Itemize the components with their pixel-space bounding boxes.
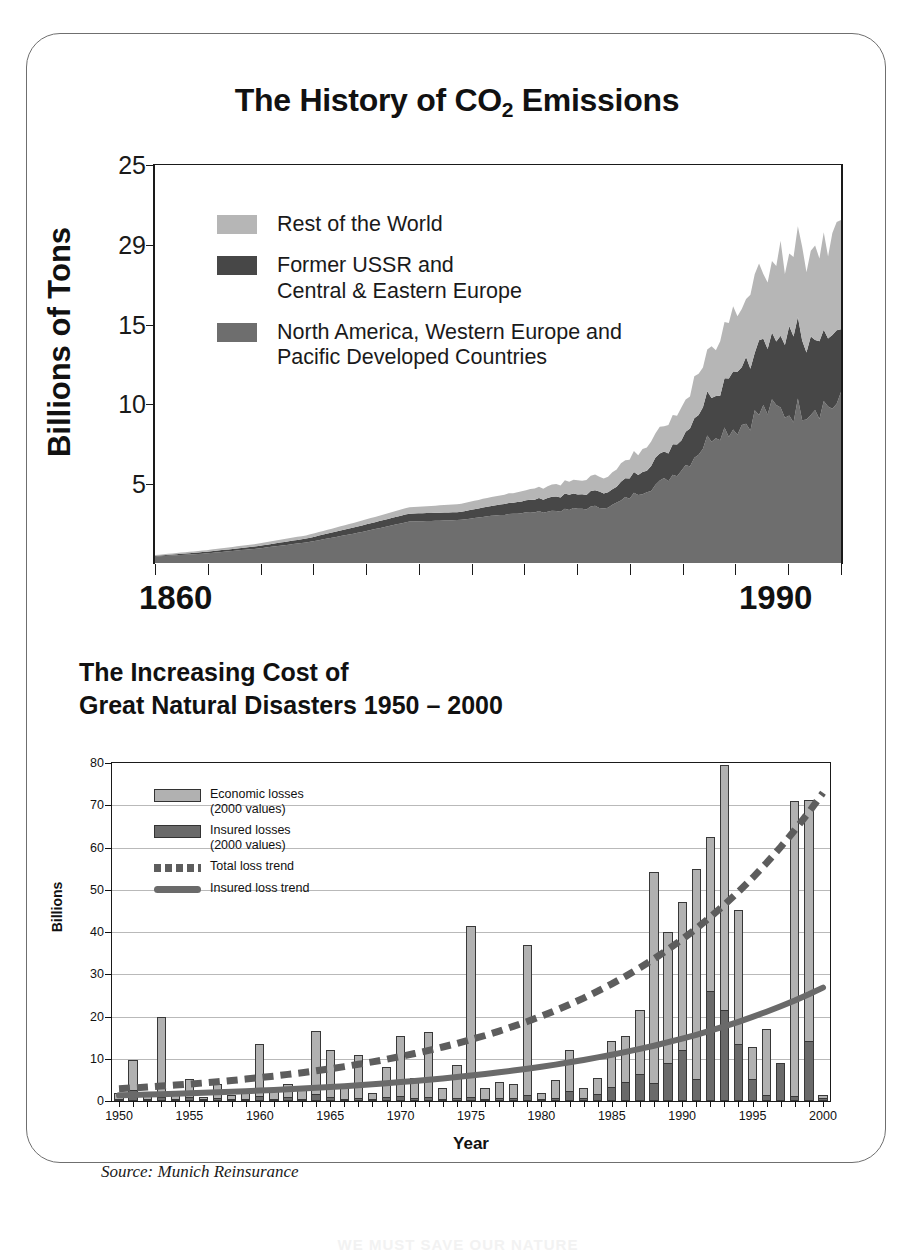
legend-swatch-icon [154, 825, 201, 838]
chart2-x-tick-label: 1995 [739, 1109, 767, 1123]
chart2-x-tick-label: 1985 [598, 1109, 626, 1123]
page-bottom-caption: WE MUST SAVE OUR NATURE [0, 1236, 916, 1252]
chart2-x-tick [358, 1101, 359, 1107]
chart2-x-tick [809, 1101, 810, 1107]
chart2-x-tick [189, 1101, 190, 1107]
chart2-x-tick [232, 1101, 233, 1107]
chart1-x-tick [313, 564, 314, 575]
chart2-x-tick [260, 1101, 261, 1107]
chart1-x-tick [630, 564, 631, 575]
chart2-x-tick [443, 1101, 444, 1107]
chart2-x-tick [753, 1101, 754, 1107]
chart2-x-tick [401, 1101, 402, 1107]
chart2-x-tick [724, 1101, 725, 1107]
chart1-y-tick-label: 5 [132, 470, 146, 499]
chart2-x-tick [668, 1101, 669, 1107]
legend-swatch-icon [217, 256, 257, 275]
chart2-x-tick [598, 1101, 599, 1107]
chart2-x-tick-label: 1975 [457, 1109, 485, 1123]
chart2-title-line2: Great Natural Disasters 1950 – 2000 [79, 689, 503, 722]
chart2-x-tick [175, 1101, 176, 1107]
chart2-x-tick [415, 1101, 416, 1107]
chart2-x-tick [485, 1101, 486, 1107]
chart2-x-tick [218, 1101, 219, 1107]
chart2-plot-area: 01020304050607080 1950195519601965197019… [111, 762, 831, 1102]
legend-swatch-icon [217, 215, 257, 234]
figure-frame: The History of CO2 Emissions Billions of… [26, 33, 886, 1163]
chart2-x-tick [555, 1101, 556, 1107]
chart2-y-axis-label: Billions [49, 847, 65, 967]
chart2-y-tick [105, 1017, 112, 1018]
legend-swatch-icon [217, 323, 257, 342]
chart2-x-tick [738, 1101, 739, 1107]
chart2-x-axis-title: Year [111, 1134, 831, 1154]
chart2-title: The Increasing Cost of Great Natural Dis… [79, 656, 503, 721]
chart2-x-tick-label: 1955 [176, 1109, 204, 1123]
chart2-x-tick [823, 1101, 824, 1107]
chart2-x-tick [654, 1101, 655, 1107]
natural-disaster-cost-chart: The Increasing Cost of Great Natural Dis… [27, 634, 887, 1164]
chart1-x-tick [208, 564, 209, 575]
chart2-y-tick-label: 50 [90, 883, 104, 897]
chart2-x-tick [387, 1101, 388, 1107]
chart2-x-tick-label: 1980 [527, 1109, 555, 1123]
chart2-legend: Economic losses(2000 values)Insured loss… [154, 787, 309, 902]
chart2-legend-label: Total loss trend [210, 859, 294, 874]
chart1-x-tick [788, 564, 789, 575]
co2-emissions-chart: The History of CO2 Emissions Billions of… [27, 34, 887, 634]
chart2-y-tick [105, 1101, 112, 1102]
chart2-x-tick [161, 1101, 162, 1107]
chart2-x-tick [640, 1101, 641, 1107]
chart2-legend-label: Insured losses(2000 values) [210, 823, 291, 852]
chart2-y-tick [105, 974, 112, 975]
legend-dashed-line-icon [154, 864, 201, 872]
chart1-y-tick [146, 245, 155, 246]
chart2-x-tick [499, 1101, 500, 1107]
chart2-x-tick [246, 1101, 247, 1107]
chart2-x-tick [626, 1101, 627, 1107]
chart2-x-tick [316, 1101, 317, 1107]
chart2-x-tick-label: 1990 [668, 1109, 696, 1123]
chart1-x-tick [366, 564, 367, 575]
chart2-x-tick [795, 1101, 796, 1107]
chart2-x-tick [612, 1101, 613, 1107]
chart2-x-tick [781, 1101, 782, 1107]
chart2-x-tick-label: 1960 [246, 1109, 274, 1123]
legend-swatch-icon [154, 789, 201, 802]
chart1-x-tick [735, 564, 736, 575]
chart1-title-tail: Emissions [513, 82, 679, 118]
chart2-y-tick [105, 805, 112, 806]
chart1-title: The History of CO2 Emissions [27, 82, 887, 119]
chart2-x-tick [513, 1101, 514, 1107]
chart1-y-tick-label: 15 [118, 310, 146, 339]
chart1-title-main: The History of CO [235, 82, 502, 118]
chart2-x-tick-label: 1950 [105, 1109, 133, 1123]
chart1-legend-item: Rest of the World [217, 212, 622, 237]
chart2-x-tick [471, 1101, 472, 1107]
chart1-legend-label: Rest of the World [277, 212, 443, 237]
chart1-legend-item: Former USSR andCentral & Eastern Europe [217, 253, 622, 304]
chart2-y-tick [105, 890, 112, 891]
chart2-x-tick [527, 1101, 528, 1107]
chart1-legend-label: Former USSR andCentral & Eastern Europe [277, 253, 522, 304]
chart2-y-tick-label: 70 [90, 798, 104, 812]
chart2-y-tick-label: 60 [90, 841, 104, 855]
chart1-y-tick-label: 10 [118, 390, 146, 419]
chart1-x-end-label: 1990 [739, 579, 812, 617]
chart1-x-tick [841, 564, 842, 575]
chart1-x-tick [472, 564, 473, 575]
chart2-y-tick [105, 1059, 112, 1060]
chart1-x-tick [261, 564, 262, 575]
chart1-x-tick [419, 564, 420, 575]
chart1-x-tick [524, 564, 525, 575]
chart2-legend-label: Economic losses(2000 values) [210, 787, 304, 816]
chart1-legend: Rest of the WorldFormer USSR andCentral … [217, 212, 622, 387]
chart2-x-tick [570, 1101, 571, 1107]
chart2-source-note: Source: Munich Reinsurance [101, 1162, 299, 1182]
chart2-x-tick [372, 1101, 373, 1107]
chart2-x-tick [584, 1101, 585, 1107]
chart2-legend-label: Insured loss trend [210, 881, 309, 896]
chart2-x-tick [274, 1101, 275, 1107]
chart2-x-tick [288, 1101, 289, 1107]
chart2-x-tick [133, 1101, 134, 1107]
